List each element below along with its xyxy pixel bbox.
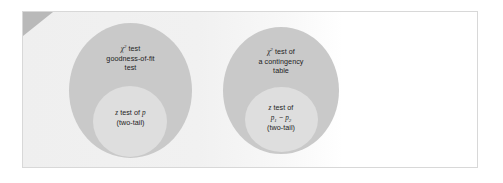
label-line-3: table — [223, 66, 339, 75]
p2-symbol: p2 — [285, 114, 291, 122]
label-line-1-text: test of — [273, 47, 295, 56]
label-line-2: (two-tail) — [69, 118, 192, 127]
label-line-2: a contingency — [223, 57, 339, 66]
figure-frame: χ2 test goodness-of-fit test z test of p… — [22, 11, 478, 168]
p-symbol: p — [142, 109, 146, 117]
venn-group-goodness-of-fit: χ2 test goodness-of-fit test z test of p… — [69, 23, 192, 158]
label-line-2: goodness-of-fit — [69, 54, 192, 63]
label-chi-square-goodness-of-fit: χ2 test goodness-of-fit test — [69, 44, 192, 73]
label-line-1-text: test of — [118, 108, 142, 117]
label-z-test-of-p: z test of p (two-tail) — [69, 108, 192, 127]
label-line-1-text: test of — [271, 103, 293, 112]
venn-group-contingency-table: χ2 test of a contingency table z test of… — [223, 27, 339, 154]
label-line-1: z test of p — [69, 108, 192, 118]
label-line-1: χ2 test — [69, 44, 192, 54]
label-line-2: p1 − p2 — [223, 113, 339, 123]
label-line-3: test — [69, 63, 192, 72]
label-line-1-text: test — [126, 44, 140, 53]
label-line-3: (two-tail) — [223, 123, 339, 132]
label-line-1: z test of — [223, 103, 339, 113]
label-chi-square-contingency-table: χ2 test of a contingency table — [223, 47, 339, 76]
label-z-test-of-p1-minus-p2: z test of p1 − p2 (two-tail) — [223, 103, 339, 133]
label-line-1: χ2 test of — [223, 47, 339, 57]
minus-operator: − — [277, 113, 285, 122]
